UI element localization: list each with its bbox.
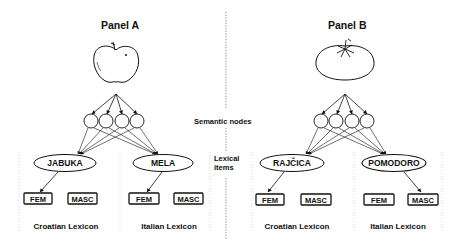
gender-box-fem: FEM bbox=[24, 193, 52, 204]
gender-label: MASC bbox=[71, 195, 94, 204]
lexicon-label: Italian Lexicon bbox=[141, 222, 197, 231]
panel-a-title: Panel A bbox=[101, 19, 140, 31]
gender-label: FEM bbox=[371, 196, 387, 205]
semantic-node bbox=[99, 114, 113, 128]
concept-to-semantic-arrows bbox=[92, 94, 137, 114]
lexical-item-mela: MELA bbox=[133, 155, 193, 172]
concept-to-semantic-arrows bbox=[322, 94, 367, 114]
lexical-items-label-line2: items bbox=[214, 163, 234, 172]
semantic-node bbox=[84, 114, 98, 128]
word-label: POMODORO bbox=[368, 158, 420, 168]
gender-box-masc: MASC bbox=[408, 194, 438, 205]
panel-b: Panel B bbox=[252, 19, 442, 232]
semantic-node bbox=[360, 114, 374, 128]
lexical-item-pomodoro: POMODORO bbox=[362, 155, 426, 172]
gender-link-arrow bbox=[268, 172, 284, 192]
gender-box-fem: FEM bbox=[129, 193, 159, 204]
diagram-canvas: Semantic nodes Lexical items Panel A bbox=[0, 0, 460, 246]
gender-link-arrow bbox=[40, 172, 58, 192]
semantic-node bbox=[115, 114, 129, 128]
semantic-node bbox=[345, 114, 359, 128]
semantic-nodes-label: Semantic nodes bbox=[194, 117, 252, 126]
lexicon-label: Italian Lexicon bbox=[370, 222, 426, 231]
word-label: JABUKA bbox=[47, 158, 82, 168]
word-label: RAJČICA bbox=[273, 157, 311, 168]
panel-b-title: Panel B bbox=[328, 19, 367, 31]
gender-label: FEM bbox=[136, 195, 152, 204]
gender-label: MASC bbox=[305, 196, 328, 205]
gender-box-masc: MASC bbox=[301, 194, 331, 205]
lexical-items-label-line1: Lexical bbox=[214, 154, 239, 163]
word-label: MELA bbox=[151, 158, 175, 168]
gender-box-fem: FEM bbox=[256, 194, 284, 205]
gender-link-arrow bbox=[404, 172, 421, 192]
semantic-to-lexical-links-b bbox=[306, 128, 386, 154]
gender-box-masc: MASC bbox=[68, 193, 97, 204]
lexical-item-jabuka: JABUKA bbox=[34, 155, 96, 172]
semantic-node bbox=[329, 114, 343, 128]
apple-icon bbox=[94, 42, 139, 82]
lexical-item-rajcica: RAJČICA bbox=[260, 155, 324, 172]
semantic-to-lexical-links-a bbox=[78, 128, 158, 154]
semantic-node bbox=[314, 114, 328, 128]
gender-label: FEM bbox=[262, 196, 278, 205]
tomato-icon bbox=[316, 39, 374, 80]
gender-box-fem: FEM bbox=[364, 194, 394, 205]
lexicon-label: Croatian Lexicon bbox=[265, 222, 330, 231]
gender-label: MASC bbox=[177, 195, 200, 204]
gender-label: MASC bbox=[412, 196, 435, 205]
semantic-nodes-a bbox=[84, 114, 144, 128]
panel-a: Panel A bbox=[19, 19, 210, 232]
semantic-node bbox=[130, 114, 144, 128]
lexicon-label: Croatian Lexicon bbox=[34, 222, 99, 231]
semantic-nodes-b bbox=[314, 114, 374, 128]
gender-box-masc: MASC bbox=[174, 193, 203, 204]
gender-label: FEM bbox=[30, 195, 46, 204]
gender-link-arrow bbox=[147, 172, 162, 192]
